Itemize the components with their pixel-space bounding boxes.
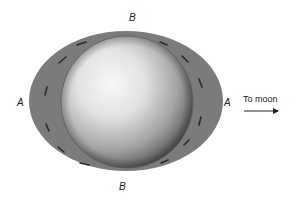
to-moon-label: To moon xyxy=(243,94,278,104)
label-b-bottom: B xyxy=(119,181,126,192)
earth-sphere-shading xyxy=(61,36,193,168)
label-a-left: A xyxy=(17,97,24,108)
tidal-diagram: B B A A To moon xyxy=(0,0,296,203)
label-b-top: B xyxy=(129,12,136,23)
label-a-right: A xyxy=(224,97,231,108)
